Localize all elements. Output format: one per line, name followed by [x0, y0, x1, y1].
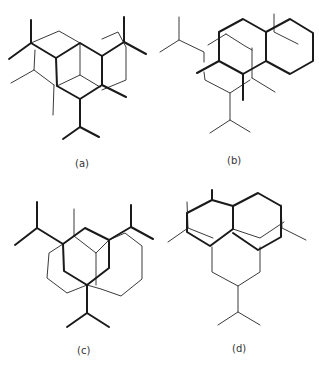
panel-label-c: (c) [77, 345, 90, 356]
panel-label-a: (a) [75, 158, 89, 169]
structure-a [9, 17, 146, 139]
molecular-structures-figure [0, 0, 319, 370]
structure-b [160, 14, 313, 133]
panel-label-d: (d) [232, 343, 246, 354]
structure-c [15, 202, 153, 327]
panel-label-b: (b) [227, 155, 241, 166]
structure-d [168, 190, 306, 325]
